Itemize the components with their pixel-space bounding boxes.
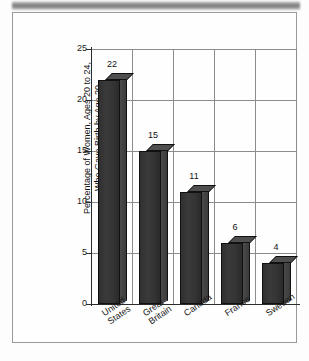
y-axis-tick-label: 20 xyxy=(65,95,87,104)
gridline-vertical xyxy=(173,49,174,304)
bar-top-face xyxy=(146,144,175,151)
bar-value-label: 22 xyxy=(97,60,127,69)
bar-value-label: 6 xyxy=(220,223,250,232)
scan-banner-strip xyxy=(12,1,300,10)
bar xyxy=(221,243,243,304)
bar-side-face xyxy=(120,76,127,304)
bar-value-label: 4 xyxy=(261,243,291,252)
chart-frame: Percentage of Women, Ages 20 to 24, Who … xyxy=(12,12,297,343)
y-axis-tick-mark xyxy=(86,49,92,50)
bar-side-face xyxy=(202,188,209,304)
y-axis-tick-mark xyxy=(86,202,92,203)
bar-front-face xyxy=(221,243,243,304)
y-axis-title: Percentage of Women, Ages 20 to 24, Who … xyxy=(31,53,55,303)
gridline-horizontal xyxy=(91,49,296,50)
bar-side-face xyxy=(161,147,168,304)
y-axis-tick-label: 10 xyxy=(65,197,87,206)
gridline-vertical xyxy=(255,49,256,304)
bar-front-face xyxy=(139,151,161,304)
y-axis-tick-mark xyxy=(86,253,92,254)
y-axis-tick-mark xyxy=(86,304,92,305)
plot-area: 22151164 xyxy=(91,49,296,304)
gridline-vertical xyxy=(132,49,133,304)
bar-value-label: 11 xyxy=(179,172,209,181)
bar-front-face xyxy=(98,80,120,304)
bar xyxy=(180,192,202,304)
bar-front-face xyxy=(180,192,202,304)
bar-top-face xyxy=(269,256,298,263)
bar-top-face xyxy=(228,236,257,243)
gridline-vertical xyxy=(214,49,215,304)
y-axis-tick-mark xyxy=(86,100,92,101)
bar-value-label: 15 xyxy=(138,131,168,140)
gridline-vertical xyxy=(296,49,297,304)
y-axis-tick-mark xyxy=(86,151,92,152)
y-axis-tick-label: 0 xyxy=(65,299,87,308)
bar xyxy=(98,80,120,304)
y-axis-tick-label: 5 xyxy=(65,248,87,257)
screenshot-root: Percentage of Women, Ages 20 to 24, Who … xyxy=(0,0,309,361)
bar-top-face xyxy=(187,185,216,192)
bar xyxy=(139,151,161,304)
y-axis-tick-label: 15 xyxy=(65,146,87,155)
bar-top-face xyxy=(105,73,134,80)
y-axis-tick-label: 25 xyxy=(65,44,87,53)
